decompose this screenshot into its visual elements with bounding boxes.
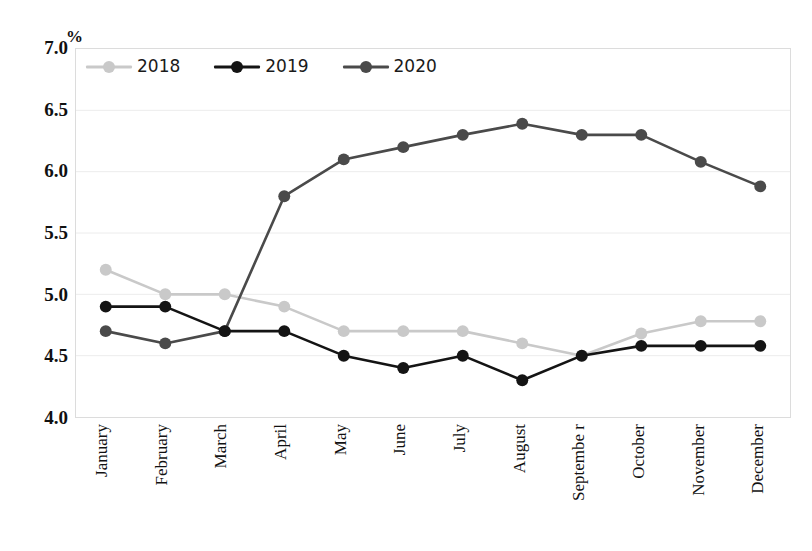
x-axis-tick-label: February	[153, 424, 171, 485]
x-axis-tick: January	[93, 424, 117, 544]
data-point-marker	[695, 340, 707, 352]
y-axis-tick-label: 4.0	[12, 407, 68, 429]
data-point-marker	[397, 325, 409, 337]
x-axis-tick-label: January	[93, 424, 111, 477]
series-2020	[100, 118, 766, 350]
x-axis-tick: October	[630, 424, 654, 544]
data-point-marker	[338, 325, 350, 337]
x-axis-tick-label: March	[212, 424, 230, 468]
legend-label: 2019	[265, 58, 308, 75]
data-point-marker	[278, 325, 290, 337]
x-axis-tick-label: November	[690, 424, 708, 496]
data-point-marker	[754, 340, 766, 352]
data-series-layer	[76, 49, 790, 417]
data-point-marker	[338, 350, 350, 362]
x-axis-tick: November	[690, 424, 714, 544]
x-axis-tick-label: July	[451, 424, 469, 452]
data-point-marker	[516, 337, 528, 349]
data-point-marker	[635, 340, 647, 352]
line-chart: % 7.06.56.05.55.04.54.0 201820192020 Jan…	[0, 0, 812, 551]
x-axis-tick-label: Septembe r	[570, 424, 588, 501]
series-2019	[100, 301, 766, 387]
x-axis-tick-labels: JanuaryFebruaryMarchAprilMayJuneJulyAugu…	[75, 424, 791, 551]
x-axis-tick-label: August	[511, 424, 529, 473]
data-point-marker	[219, 325, 231, 337]
y-axis-unit-label: %	[66, 27, 83, 47]
data-point-marker	[457, 129, 469, 141]
x-axis-tick-label: May	[332, 424, 350, 455]
data-point-marker	[159, 301, 171, 313]
data-point-marker	[695, 156, 707, 168]
y-axis-tick-label: 7.0	[12, 37, 68, 59]
x-axis-tick: Septembe r	[570, 424, 594, 544]
y-axis-tick-label: 5.5	[12, 222, 68, 244]
series-line	[106, 124, 761, 344]
y-axis-tick-label: 6.0	[12, 160, 68, 182]
data-point-marker	[516, 118, 528, 130]
plot-area	[75, 48, 791, 418]
data-point-marker	[457, 325, 469, 337]
data-point-marker	[516, 374, 528, 386]
x-axis-tick-label: December	[749, 424, 767, 494]
y-axis-tick-label: 5.0	[12, 284, 68, 306]
data-point-marker	[100, 301, 112, 313]
x-axis-tick: July	[451, 424, 475, 544]
data-point-marker	[278, 301, 290, 313]
data-point-marker	[754, 315, 766, 327]
x-axis-tick-label: October	[630, 424, 648, 479]
data-point-marker	[338, 153, 350, 165]
x-axis-tick: June	[391, 424, 415, 544]
x-axis-tick: March	[212, 424, 236, 544]
x-axis-tick: February	[153, 424, 177, 544]
legend-marker-icon	[214, 60, 260, 74]
data-point-marker	[397, 362, 409, 374]
data-point-marker	[576, 350, 588, 362]
data-point-marker	[754, 180, 766, 192]
series-line	[106, 270, 761, 356]
y-axis-tick-label: 4.5	[12, 345, 68, 367]
series-line	[106, 307, 761, 381]
data-point-marker	[100, 264, 112, 276]
x-axis-tick: April	[272, 424, 296, 544]
y-axis-tick-labels: 7.06.56.05.55.04.54.0	[8, 0, 68, 551]
data-point-marker	[219, 288, 231, 300]
data-point-marker	[159, 288, 171, 300]
chart-legend: 201820192020	[86, 58, 437, 75]
x-axis-tick: May	[332, 424, 356, 544]
legend-label: 2020	[394, 58, 437, 75]
legend-item-2019[interactable]: 2019	[214, 58, 308, 75]
data-point-marker	[576, 129, 588, 141]
data-point-marker	[457, 350, 469, 362]
x-axis-tick: August	[511, 424, 535, 544]
legend-item-2018[interactable]: 2018	[86, 58, 180, 75]
legend-label: 2018	[137, 58, 180, 75]
legend-marker-icon	[343, 60, 389, 74]
data-point-marker	[635, 328, 647, 340]
data-point-marker	[100, 325, 112, 337]
data-point-marker	[159, 337, 171, 349]
legend-marker-icon	[86, 60, 132, 74]
data-point-marker	[635, 129, 647, 141]
legend-item-2020[interactable]: 2020	[343, 58, 437, 75]
x-axis-tick-label: April	[272, 424, 290, 460]
data-point-marker	[278, 190, 290, 202]
x-axis-tick: December	[749, 424, 773, 544]
data-point-marker	[695, 315, 707, 327]
x-axis-tick-label: June	[391, 424, 409, 455]
data-point-marker	[397, 141, 409, 153]
y-axis-tick-label: 6.5	[12, 99, 68, 121]
